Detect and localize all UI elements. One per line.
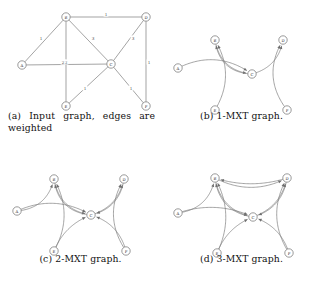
graph-arc xyxy=(216,44,246,73)
arrowhead-icon xyxy=(211,184,214,187)
panel-c-caption: (c) 2-MXT graph. xyxy=(0,253,161,265)
node-label: B xyxy=(65,15,68,20)
node-label: D xyxy=(144,15,147,20)
node-label: C xyxy=(90,213,93,218)
graph-node-b[interactable]: B xyxy=(211,36,219,44)
node-label: F xyxy=(145,104,148,109)
graph-arc xyxy=(221,179,283,184)
panel-c: ABCDEF (c) 2-MXT graph. xyxy=(0,143,161,286)
graph-arc xyxy=(21,185,52,211)
edge-weight-label: 2 xyxy=(62,60,65,65)
node-label: C xyxy=(251,72,254,77)
edge-weight-label: 3 xyxy=(92,36,95,41)
graph-node-b[interactable]: B xyxy=(62,13,70,21)
graph-node-a[interactable]: A xyxy=(174,209,182,217)
node-label: C xyxy=(110,62,113,67)
node-label: A xyxy=(176,66,180,71)
panel-a-canvas: 121323111ABCDEF xyxy=(0,0,161,112)
graph-arc xyxy=(273,45,284,106)
panel-a-caption: (a) Input graph, edges are weighted xyxy=(0,110,161,133)
graph-arc xyxy=(217,45,225,106)
panel-b: ABCDEF (b) 1-MXT graph. xyxy=(161,0,322,143)
panel-d-graph: ABCDEF xyxy=(161,143,322,255)
graph-arc xyxy=(219,219,248,249)
node-label: D xyxy=(281,38,284,43)
graph-node-a[interactable]: A xyxy=(174,64,182,72)
edge-weight-label: 1 xyxy=(40,36,43,41)
node-label: D xyxy=(285,176,288,181)
graph-node-d[interactable]: D xyxy=(142,13,150,21)
graph-arc xyxy=(216,184,249,216)
node-label: D xyxy=(122,177,125,182)
panel-d-canvas: ABCDEF xyxy=(161,143,322,255)
graph-node-d[interactable]: D xyxy=(279,36,287,44)
graph-node-c[interactable]: C xyxy=(248,70,256,78)
edge-weight-label: 1 xyxy=(148,60,151,65)
panel-b-canvas: ABCDEF xyxy=(161,0,322,112)
node-label: E xyxy=(65,104,68,109)
graph-node-e[interactable]: E xyxy=(62,102,70,110)
graph-arc xyxy=(216,46,248,74)
panel-c-graph: ABCDEF xyxy=(0,143,161,255)
graph-node-d[interactable]: D xyxy=(120,175,128,183)
graph-arc xyxy=(258,219,287,249)
panel-a-graph: 121323111ABCDEF xyxy=(0,0,161,112)
graph-edge xyxy=(69,67,108,103)
node-label: B xyxy=(214,176,217,181)
graph-node-f[interactable]: F xyxy=(142,102,150,110)
panel-c-canvas: ABCDEF xyxy=(0,143,161,255)
graph-node-d[interactable]: D xyxy=(283,174,291,182)
figure-container: 121323111ABCDEF (a) Input graph, edges a… xyxy=(0,0,323,286)
graph-node-a[interactable]: A xyxy=(18,61,26,69)
graph-edge xyxy=(114,67,144,103)
graph-arc xyxy=(56,217,86,247)
node-label: B xyxy=(53,177,56,182)
graph-arc xyxy=(182,207,247,214)
graph-arc xyxy=(216,182,247,215)
panel-b-caption: (b) 1-MXT graph. xyxy=(161,110,322,122)
edge-weight-label: 1 xyxy=(84,86,87,91)
panel-d: ABCDEF (d) 3-MXT graph. xyxy=(161,143,322,286)
panel-a: 121323111ABCDEF (a) Input graph, edges a… xyxy=(0,0,161,143)
graph-node-b[interactable]: B xyxy=(211,174,219,182)
arrowhead-icon xyxy=(50,185,53,189)
edge-weight-label: 3 xyxy=(132,36,135,41)
graph-node-b[interactable]: B xyxy=(50,175,58,183)
node-label: C xyxy=(252,215,255,220)
graph-arc xyxy=(257,184,285,216)
graph-node-c[interactable]: C xyxy=(249,213,257,221)
graph-arc xyxy=(95,185,122,214)
node-label: B xyxy=(214,38,217,43)
panel-d-caption: (d) 3-MXT graph. xyxy=(161,253,322,265)
graph-edge xyxy=(114,20,144,60)
edge-weight-label: 1 xyxy=(105,12,108,17)
graph-edge xyxy=(25,20,63,62)
graph-arc xyxy=(259,182,287,215)
node-label: A xyxy=(15,209,19,214)
graph-arc xyxy=(55,183,85,214)
graph-arc xyxy=(56,184,64,247)
graph-node-c[interactable]: C xyxy=(107,60,115,68)
node-label: A xyxy=(176,211,180,216)
panel-b-graph: ABCDEF xyxy=(161,0,322,112)
graph-arc xyxy=(182,60,247,71)
graph-edge xyxy=(69,20,108,61)
graph-node-a[interactable]: A xyxy=(13,207,21,215)
edge-weight-label: 1 xyxy=(130,86,133,91)
node-label: A xyxy=(20,63,24,68)
graph-node-c[interactable]: C xyxy=(87,211,95,219)
